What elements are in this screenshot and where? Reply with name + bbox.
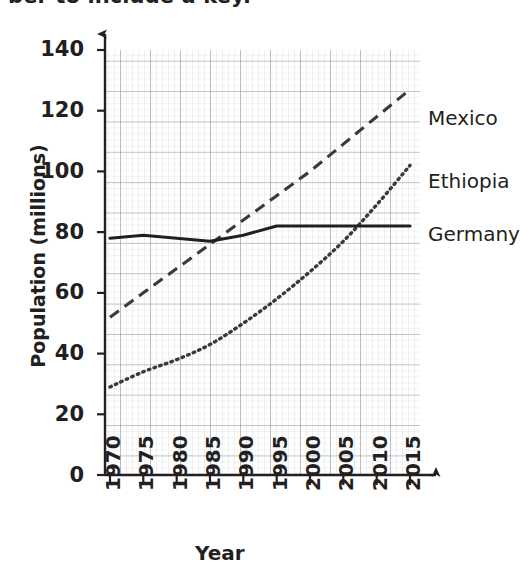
y-tick-label-60: 60 [26, 282, 84, 303]
x-tick-label-1980: 1980 [170, 435, 190, 491]
y-tick-label-0: 0 [26, 465, 84, 486]
x-tick-label-1990: 1990 [236, 435, 256, 491]
y-tick-label-100: 100 [26, 161, 84, 182]
x-tick-label-2015: 2015 [403, 435, 423, 491]
y-tick-label-40: 40 [26, 343, 84, 364]
series-label-mexico: Mexico [428, 108, 498, 128]
x-tick-label-2000: 2000 [303, 435, 323, 491]
y-tick-label-80: 80 [26, 222, 84, 243]
y-tick-label-120: 120 [26, 100, 84, 121]
y-tick-label-20: 20 [26, 404, 84, 425]
x-tick-label-1985: 1985 [203, 435, 223, 491]
x-tick-label-2005: 2005 [336, 435, 356, 491]
y-tick-label-140: 140 [26, 39, 84, 60]
x-tick-label-1975: 1975 [136, 435, 156, 491]
plot-gridlines [105, 50, 420, 475]
series-label-germany: Germany [428, 224, 520, 244]
series-label-ethiopia: Ethiopia [428, 171, 509, 191]
x-tick-label-2010: 2010 [370, 435, 390, 491]
x-tick-label-1970: 1970 [103, 435, 123, 491]
x-tick-label-1995: 1995 [270, 435, 290, 491]
x-axis-title: Year [195, 541, 245, 565]
